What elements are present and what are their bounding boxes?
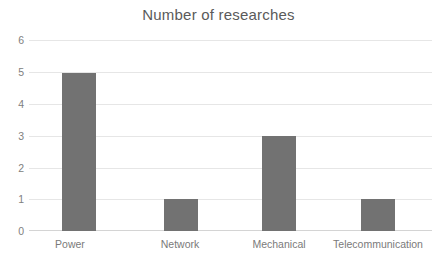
y-tick-2: 2 [0,163,24,173]
x-label-mechanical: Mechanical [229,238,329,250]
bar-telecommunication[interactable] [361,199,395,231]
plot-area [29,40,432,231]
bar-network[interactable] [164,199,198,231]
x-label-network: Network [130,238,230,250]
y-tick-1: 1 [0,194,24,204]
y-tick-3: 3 [0,131,24,141]
y-tick-4: 4 [0,99,24,109]
x-label-telecommunication: Telecommunication [318,238,437,250]
chart-title: Number of researches [0,6,437,23]
y-tick-0: 0 [0,226,24,236]
x-label-power: Power [20,238,120,250]
gridline-6 [29,40,432,41]
bar-chart: Number of researches 6 5 4 3 2 1 0 Power… [0,0,437,262]
bar-mechanical[interactable] [262,136,296,231]
bar-power[interactable] [62,73,96,231]
y-tick-5: 5 [0,67,24,77]
y-tick-6: 6 [0,35,24,45]
